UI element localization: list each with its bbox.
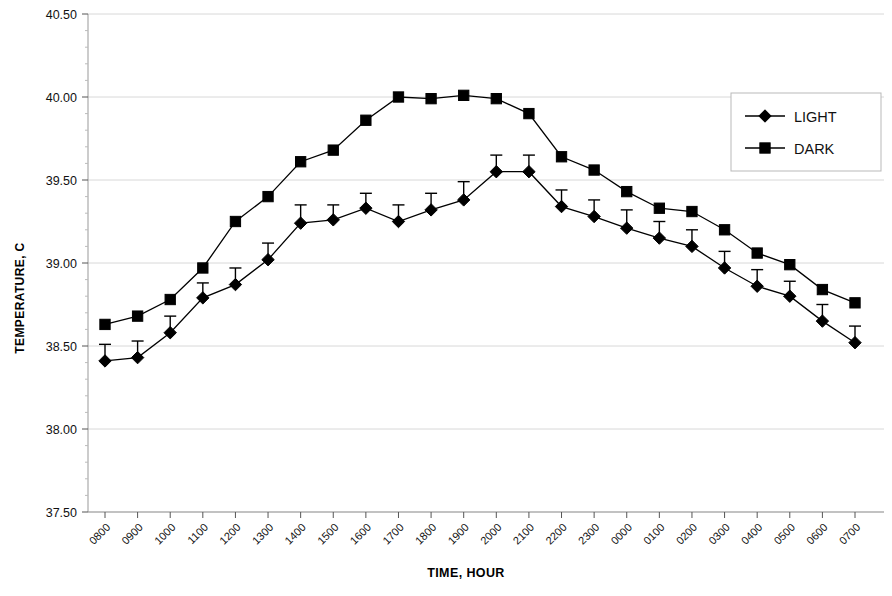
series-light — [99, 155, 861, 367]
data-point-marker — [816, 315, 828, 327]
x-axis-tick-label: 2000 — [478, 521, 504, 547]
data-point-marker — [817, 284, 827, 294]
data-point-marker — [327, 214, 339, 226]
y-axis-tick-label: 39.50 — [46, 174, 77, 188]
y-axis-tick-label: 38.50 — [46, 340, 77, 354]
data-point-marker — [718, 262, 730, 274]
x-axis-tick-label: 0600 — [804, 521, 830, 547]
data-point-marker — [296, 157, 306, 167]
data-point-marker — [392, 215, 404, 227]
x-axis-tick-label: 1800 — [413, 521, 439, 547]
data-point-marker — [131, 351, 143, 363]
data-point-marker — [361, 115, 371, 125]
y-axis-tick-label: 40.50 — [46, 8, 77, 22]
y-axis: 37.5038.0038.5039.0039.5040.0040.50 — [46, 8, 88, 520]
x-axis-tick-label: 1100 — [185, 521, 210, 546]
legend-box — [731, 93, 881, 171]
x-axis-tick-label: 2200 — [543, 521, 569, 547]
x-axis-tick-label: 2100 — [511, 521, 537, 547]
data-point-marker — [393, 92, 403, 102]
data-point-marker — [491, 94, 501, 104]
x-axis-tick-label: 1900 — [445, 521, 471, 547]
data-point-marker — [426, 94, 436, 104]
x-axis-tick-label: 0100 — [641, 521, 667, 547]
chart-canvas: 37.5038.0038.5039.0039.5040.0040.5008000… — [0, 0, 892, 596]
data-point-marker — [653, 232, 665, 244]
data-point-marker — [99, 355, 111, 367]
x-axis-tick-label: 0800 — [87, 521, 113, 547]
x-axis-tick-label: 1200 — [217, 521, 243, 547]
x-axis-tick-label: 1500 — [315, 521, 341, 547]
data-point-marker — [328, 145, 338, 155]
data-point-marker — [588, 210, 600, 222]
x-axis-tick-label: 0700 — [837, 521, 863, 547]
data-point-marker — [622, 186, 632, 196]
x-axis-tick-label: 1300 — [250, 521, 276, 547]
data-point-marker — [165, 294, 175, 304]
data-point-marker — [784, 290, 796, 302]
x-axis-tick-label: 0000 — [608, 521, 634, 547]
data-point-marker — [719, 225, 729, 235]
data-point-marker — [785, 260, 795, 270]
legend-label: LIGHT — [794, 109, 837, 125]
data-point-marker — [654, 203, 664, 213]
series-line — [105, 172, 855, 361]
data-point-marker — [229, 278, 241, 290]
data-point-marker — [621, 222, 633, 234]
x-axis-tick-label: 0500 — [771, 521, 797, 547]
data-point-marker — [686, 240, 698, 252]
data-point-marker — [524, 108, 534, 118]
data-point-marker — [263, 191, 273, 201]
x-axis: 0800090010001100120013001400150016001700… — [87, 512, 884, 547]
x-axis-tick-label: 1700 — [380, 521, 406, 547]
x-axis-tick-label: 0900 — [119, 521, 145, 547]
chart-root: TEMPERATURE, C 37.5038.0038.5039.0039.50… — [0, 0, 892, 596]
data-point-marker — [589, 165, 599, 175]
data-point-marker — [230, 216, 240, 226]
x-axis-tick-label: 1600 — [347, 521, 373, 547]
data-point-marker — [751, 280, 763, 292]
x-axis-tick-label: 0200 — [674, 521, 700, 547]
data-point-marker — [425, 204, 437, 216]
y-axis-tick-label: 38.00 — [46, 423, 77, 437]
data-point-marker — [760, 143, 770, 153]
data-point-marker — [132, 311, 142, 321]
data-point-marker — [850, 298, 860, 308]
y-axis-tick-label: 39.00 — [46, 257, 77, 271]
y-axis-tick-label: 40.00 — [46, 91, 77, 105]
data-point-marker — [687, 206, 697, 216]
data-point-marker — [100, 319, 110, 329]
y-axis-tick-label: 37.50 — [46, 506, 77, 520]
data-point-marker — [849, 336, 861, 348]
data-point-marker — [459, 90, 469, 100]
x-axis-tick-label: 0300 — [706, 521, 732, 547]
legend-label: DARK — [794, 141, 835, 157]
x-axis-title: TIME, HOUR — [0, 566, 892, 580]
data-point-marker — [198, 263, 208, 273]
data-point-marker — [556, 152, 566, 162]
legend: LIGHTDARK — [731, 93, 881, 171]
x-axis-tick-label: 1400 — [282, 521, 308, 547]
x-axis-tick-label: 2300 — [576, 521, 602, 547]
x-axis-tick-label: 0400 — [739, 521, 765, 547]
x-axis-title-text: TIME, HOUR — [427, 566, 505, 580]
data-point-marker — [752, 248, 762, 258]
x-axis-tick-label: 1000 — [152, 521, 178, 547]
data-point-marker — [360, 202, 372, 214]
